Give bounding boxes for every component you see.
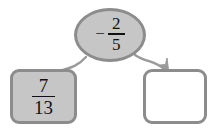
operator-ellipse[interactable]: − 2 5 — [74, 8, 146, 62]
arrow-to-right-box-line — [135, 55, 165, 70]
left-box-fraction-numerator: 7 — [37, 76, 51, 96]
right-answer-box[interactable] — [143, 69, 207, 124]
operator-fraction-numerator: 2 — [110, 15, 123, 33]
operator-value: − 2 5 — [95, 15, 125, 53]
right-answer-box-value — [175, 96, 176, 97]
left-box-fraction: 7 13 — [32, 76, 55, 118]
operator-fraction-denominator: 5 — [110, 35, 123, 53]
left-box-fraction-denominator: 13 — [32, 97, 55, 117]
operator-fraction: 2 5 — [108, 15, 125, 53]
left-value-box[interactable]: 7 13 — [10, 69, 77, 124]
minus-sign-icon: − — [95, 25, 105, 42]
fraction-operation-diagram: − 2 5 7 13 — [0, 0, 219, 129]
